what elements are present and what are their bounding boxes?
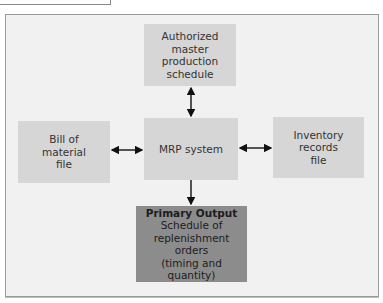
arrows-layer bbox=[0, 0, 383, 303]
